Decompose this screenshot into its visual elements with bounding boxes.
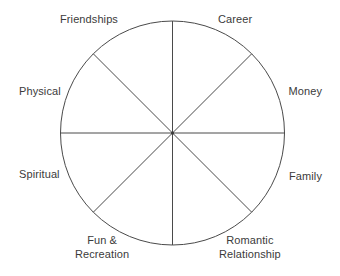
wheel-label-money-text: Money xyxy=(288,85,322,99)
wheel-label-physical-text: Physical xyxy=(19,85,61,99)
wheel-label-romantic-line2: Relationship xyxy=(219,248,281,262)
wheel-label-fun-line2: Recreation xyxy=(75,248,129,262)
wheel-label-money: Money xyxy=(288,85,322,99)
wheel-label-physical: Physical xyxy=(19,85,61,99)
wheel-label-fun-recreation: Fun & Recreation xyxy=(75,234,129,261)
wheel-label-fun-line1: Fun & xyxy=(75,234,129,248)
wheel-label-friendships-text: Friendships xyxy=(60,13,118,27)
wheel-center-point xyxy=(171,131,174,134)
wheel-label-romantic-line1: Romantic xyxy=(219,234,281,248)
wheel-label-spiritual: Spiritual xyxy=(19,168,60,182)
wheel-label-spiritual-text: Spiritual xyxy=(19,168,60,182)
wheel-label-family: Family xyxy=(289,170,322,184)
wheel-label-friendships: Friendships xyxy=(60,13,118,27)
wheel-label-family-text: Family xyxy=(289,170,322,184)
wheel-label-career-text: Career xyxy=(218,13,252,27)
wheel-label-romantic-relationship: Romantic Relationship xyxy=(219,234,281,261)
wheel-graphic xyxy=(0,0,340,276)
wheel-of-life-diagram: Friendships Career Physical Money Spirit… xyxy=(0,0,340,276)
wheel-label-career: Career xyxy=(218,13,252,27)
